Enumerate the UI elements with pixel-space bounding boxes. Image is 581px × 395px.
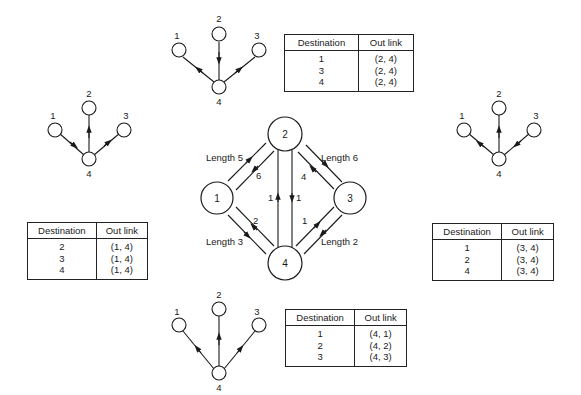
link-4-1-length-label: 2	[253, 215, 258, 226]
tree-right-leaf-1: 1	[459, 110, 464, 121]
tree-left	[48, 101, 131, 166]
table-row: 3(2, 4)	[285, 65, 414, 77]
cell-out-link: (3, 4)	[502, 240, 554, 254]
tree-top	[172, 27, 266, 94]
node-4: 4	[268, 246, 302, 280]
table-row: 4(2, 4)	[285, 76, 414, 91]
link-2-1-length-label: 6	[256, 170, 261, 181]
table-row: 4(3, 4)	[433, 265, 554, 280]
cell-out-link: (2, 4)	[358, 51, 413, 65]
cell-out-link: (3, 4)	[502, 265, 554, 280]
network-nodes: 2 1 3 4	[201, 117, 366, 280]
cell-out-link: (4, 3)	[355, 351, 407, 366]
node-3-label: 3	[347, 193, 353, 204]
node-2-label: 2	[282, 129, 288, 140]
table-row: 1(2, 4)	[285, 51, 414, 65]
table-row: 2(3, 4)	[433, 254, 554, 266]
cell-out-link: (1, 4)	[96, 253, 147, 265]
cell-destination: 4	[28, 264, 97, 279]
node-3: 3	[334, 182, 366, 214]
tree-right-leaf-3: 3	[533, 110, 538, 121]
arrow-1-to-4-icon	[244, 232, 248, 236]
cell-destination: 2	[28, 239, 97, 253]
arrow-4-to-3-icon	[314, 224, 318, 228]
column-header-out-link: Out link	[96, 223, 147, 239]
column-header-destination: Destination	[28, 223, 97, 239]
link-1-2	[228, 143, 274, 190]
tree-right-leaf-2: 2	[496, 88, 501, 99]
tree-left-leaf-2: 2	[86, 88, 91, 99]
column-header-out-link: Out link	[358, 35, 413, 51]
column-header-destination: Destination	[433, 224, 502, 240]
cell-destination: 3	[286, 351, 355, 366]
cell-out-link: (4, 2)	[355, 340, 407, 352]
routing-table-node-1: Destination Out link 2(1, 4) 3(1, 4) 4(1…	[27, 222, 148, 280]
table-row: 3(4, 3)	[286, 351, 407, 366]
tree-bottom-root: 4	[216, 382, 221, 393]
table-row: 1(3, 4)	[433, 240, 554, 254]
tree-left-leaf-3: 3	[123, 110, 128, 121]
cell-destination: 1	[286, 326, 355, 340]
link-2-4-length-label: 1	[296, 192, 301, 203]
column-header-destination: Destination	[286, 310, 355, 326]
arrow-1-to-2-icon	[246, 159, 250, 163]
cell-out-link: (2, 4)	[358, 65, 413, 77]
cell-destination: 4	[285, 76, 359, 91]
link-4-2-length-label: 1	[268, 192, 273, 203]
table-row: 2(1, 4)	[28, 239, 148, 253]
cell-destination: 3	[285, 65, 359, 77]
node-4-label: 4	[282, 258, 288, 269]
cell-destination: 2	[433, 254, 502, 266]
cell-destination: 1	[285, 51, 359, 65]
cell-out-link: (2, 4)	[358, 76, 413, 91]
tree-right	[457, 101, 541, 166]
column-header-destination: Destination	[285, 35, 359, 51]
link-4-3-length-label: 1	[302, 215, 307, 226]
tree-right-root: 4	[496, 168, 501, 179]
link-3-2-length-label: 4	[301, 171, 306, 182]
table-row: 3(1, 4)	[28, 253, 148, 265]
tree-left-leaf-1: 1	[50, 110, 55, 121]
table-row: 2(4, 2)	[286, 340, 407, 352]
cell-destination: 3	[28, 253, 97, 265]
tree-top-leaf-2: 2	[216, 13, 221, 24]
column-header-out-link: Out link	[355, 310, 407, 326]
cell-out-link: (3, 4)	[502, 254, 554, 266]
cell-out-link: (4, 1)	[355, 326, 407, 340]
link-2-4	[278, 150, 292, 248]
routing-table-node-3: Destination Out link 1(3, 4) 2(3, 4) 4(3…	[432, 223, 554, 281]
routing-table-node-4: Destination Out link 1(4, 1) 2(4, 2) 3(4…	[285, 309, 407, 367]
link-1-2-length-label: Length 5	[206, 152, 243, 163]
link-3-4-length-label: Length 2	[321, 236, 358, 247]
routing-table-node-2: Destination Out link 1(2, 4) 3(2, 4) 4(2…	[284, 34, 414, 92]
node-1-label: 1	[214, 193, 220, 204]
tree-top-leaf-1: 1	[174, 30, 179, 41]
link-1-4-length-label: Length 3	[206, 236, 243, 247]
tree-bottom-leaf-2: 2	[216, 289, 221, 300]
table-row: 1(4, 1)	[286, 326, 407, 340]
tree-bottom	[172, 302, 266, 380]
node-1: 1	[201, 182, 233, 214]
cell-destination: 4	[433, 265, 502, 280]
tree-top-root: 4	[216, 96, 221, 107]
cell-destination: 2	[286, 340, 355, 352]
cell-out-link: (1, 4)	[96, 264, 147, 279]
link-2-3-length-label: Length 6	[321, 152, 358, 163]
cell-out-link: (1, 4)	[96, 239, 147, 253]
node-2: 2	[268, 117, 302, 151]
tree-bottom-leaf-3: 3	[254, 306, 259, 317]
tree-bottom-leaf-1: 1	[174, 306, 179, 317]
tree-left-root: 4	[86, 168, 91, 179]
table-row: 4(1, 4)	[28, 264, 148, 279]
cell-destination: 1	[433, 240, 502, 254]
tree-top-leaf-3: 3	[254, 30, 259, 41]
column-header-out-link: Out link	[502, 224, 554, 240]
